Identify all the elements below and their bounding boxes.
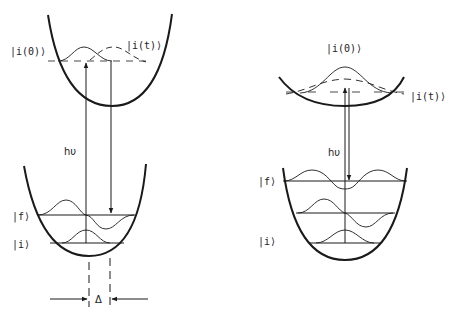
left-upper-potential-curve (48, 14, 172, 106)
right-it-label: |i(t)⟩ (410, 91, 446, 103)
left-it-label: |i(t)⟩ (126, 40, 162, 52)
right-upper-potential-curve (279, 77, 404, 106)
right-panel: |i(0)⟩ |i(t)⟩ hυ |f⟩ |i⟩ (258, 43, 446, 260)
right-i0-wavepacket (300, 67, 392, 93)
left-lower-potential-curve (24, 164, 146, 256)
left-photon-label: hυ (64, 146, 76, 157)
left-i-label: |i⟩ (12, 239, 30, 251)
left-panel: |i(0)⟩ |i(t)⟩ hυ |f⟩ |i⟩ Δ (10, 14, 172, 307)
right-i-label: |i⟩ (258, 236, 276, 248)
left-i0-label: |i(0)⟩ (10, 46, 46, 58)
energy-diagram: |i(0)⟩ |i(t)⟩ hυ |f⟩ |i⟩ Δ |i(0)⟩ (0, 0, 454, 314)
right-photon-label: hυ (328, 147, 340, 158)
left-i0-wavepacket (58, 47, 112, 61)
right-i0-label: |i(0)⟩ (326, 43, 362, 55)
right-f-label: |f⟩ (258, 176, 276, 188)
left-delta-label: Δ (95, 294, 102, 305)
left-f-label: |f⟩ (12, 211, 30, 223)
